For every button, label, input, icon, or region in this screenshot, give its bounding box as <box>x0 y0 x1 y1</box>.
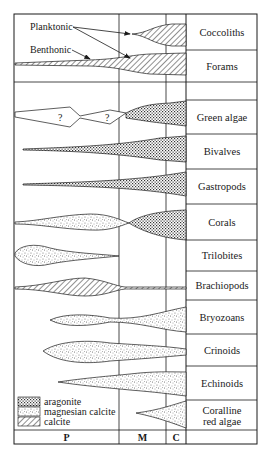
annotation-planktonic: Planktonic <box>30 21 73 32</box>
legend-swatch-magnesian-calcite <box>18 407 40 416</box>
period-label-c: C <box>166 432 186 444</box>
period-label-m: M <box>119 432 166 444</box>
label-echinoids: Echinoids <box>187 366 257 400</box>
legend-label-calcite: calcite <box>44 416 70 427</box>
spindle-coccoliths <box>132 24 186 46</box>
label-bivalves: Bivalves <box>187 134 257 169</box>
spindle-forams <box>15 53 186 75</box>
label-coccoliths: Coccoliths <box>187 14 257 50</box>
spindle-coralline-red-algae <box>136 401 186 428</box>
label-forams: Forams <box>187 50 257 82</box>
spindle-gastropods <box>23 172 186 196</box>
label-coralline-line2: red algae <box>203 416 241 427</box>
label-trilobites: Trilobites <box>187 240 257 271</box>
spindle-corals-early <box>15 214 129 230</box>
label-corals: Corals <box>187 204 257 240</box>
label-brachiopods: Brachiopods <box>187 271 257 300</box>
label-crinoids: Crinoids <box>187 334 257 366</box>
label-coralline-red-algae: Coralline red algae <box>187 402 257 430</box>
spindle-green-algae <box>126 101 186 126</box>
label-coralline-line1: Coralline <box>202 405 241 416</box>
spindle-corals <box>129 210 186 240</box>
spindle-brachiopods <box>15 278 186 296</box>
annotation-arrows <box>72 27 130 59</box>
spindle-trilobites <box>15 245 119 265</box>
question-mark-2: ? <box>105 112 109 123</box>
period-label-p: P <box>14 432 119 444</box>
question-mark-1: ? <box>58 112 62 123</box>
spindle-bivalves <box>23 136 186 162</box>
spindle-crinoids <box>43 341 186 362</box>
label-green-algae: Green algae <box>187 100 257 134</box>
label-bryozoans: Bryozoans <box>187 300 257 334</box>
spindle-echinoids <box>58 372 186 396</box>
label-gastropods: Gastropods <box>187 169 257 204</box>
annotation-benthonic: Benthonic <box>30 44 71 55</box>
legend-swatch-aragonite <box>18 397 40 406</box>
legend-swatch-calcite <box>18 417 40 426</box>
